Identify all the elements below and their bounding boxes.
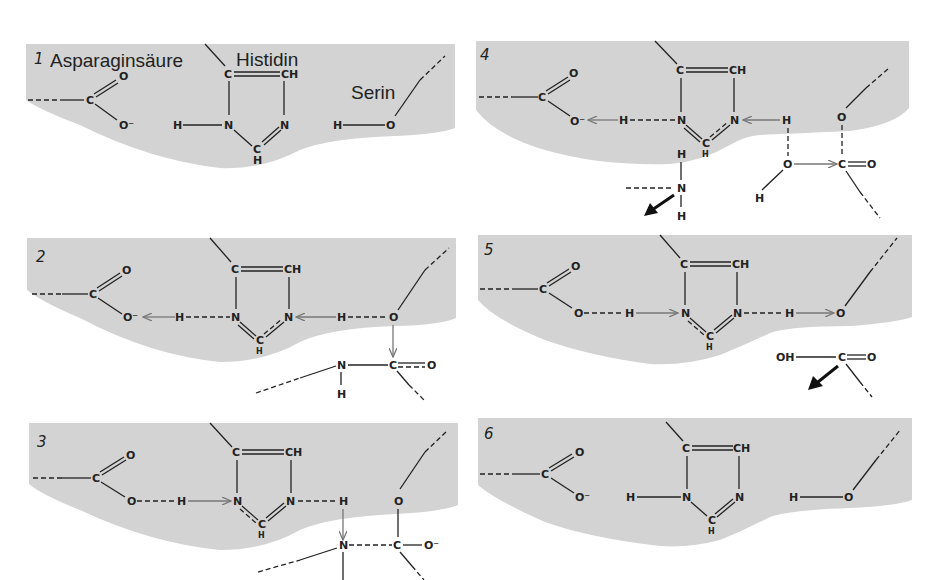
atom-o: O xyxy=(783,158,792,171)
atom-o: O xyxy=(386,119,395,132)
panel-5: 5 C O O H C CH N N C H H O OH C O xyxy=(478,235,912,397)
atom-c: C xyxy=(676,64,684,77)
panel-2: 2 C O O⁻ H C CH N N C H H O N H xyxy=(27,238,456,401)
atom-h: H xyxy=(337,388,346,401)
atom-c: C xyxy=(702,137,710,150)
atom-n: N xyxy=(280,119,289,132)
atom-h: H xyxy=(175,311,184,324)
panel-number: 2 xyxy=(36,248,46,266)
atom-o: O xyxy=(837,111,846,124)
enzyme-surface xyxy=(29,423,458,550)
atom-h: H xyxy=(708,527,715,536)
atom-ch: CH xyxy=(729,64,746,77)
leaving-group-arrow-icon xyxy=(644,203,658,216)
atom-o: O xyxy=(122,264,131,277)
atom-n: N xyxy=(286,495,295,508)
atom-h: H xyxy=(337,311,346,324)
atom-h: H xyxy=(789,491,798,504)
atom-n: N xyxy=(339,539,348,552)
atom-o-minus: O⁻ xyxy=(575,491,590,504)
atom-h: H xyxy=(333,119,342,132)
atom-n: N xyxy=(677,114,686,127)
atom-o-minus: O⁻ xyxy=(570,115,585,128)
atom-c: C xyxy=(838,351,846,364)
panel-number: 5 xyxy=(484,241,494,259)
atom-c: C xyxy=(256,334,264,347)
atom-ch: CH xyxy=(281,68,298,81)
atom-o-minus: O⁻ xyxy=(424,539,439,552)
atom-o: O xyxy=(427,359,436,372)
atom-o: O xyxy=(836,307,845,320)
atom-h: H xyxy=(619,114,628,127)
atom-h: H xyxy=(253,154,262,167)
panel-1: 1 Asparaginsäure Histidin Serin C O O⁻ C… xyxy=(26,44,455,168)
atom-n: N xyxy=(677,182,686,195)
atom-c: C xyxy=(393,539,401,552)
panel-number: 3 xyxy=(37,433,47,451)
atom-c: C xyxy=(224,68,232,81)
atom-c: C xyxy=(258,518,266,531)
panel-number: 4 xyxy=(480,46,490,64)
catalytic-triad-diagram: 1 Asparaginsäure Histidin Serin C O O⁻ C… xyxy=(0,0,932,580)
atom-o: O xyxy=(127,495,136,508)
atom-o: O xyxy=(126,449,135,462)
panel-4: 4 C O O⁻ H C CH N N C H H O H O C xyxy=(476,41,909,223)
atom-h: H xyxy=(258,531,265,540)
atom-oh: OH xyxy=(776,351,795,364)
atom-c: C xyxy=(706,330,714,343)
atom-o-minus: O⁻ xyxy=(119,119,134,132)
atom-ch: CH xyxy=(284,263,301,276)
enzyme-surface xyxy=(478,418,912,546)
atom-o: O xyxy=(867,158,876,171)
aspartate-label: Asparaginsäure xyxy=(50,50,183,71)
atom-h: H xyxy=(706,343,713,352)
atom-h: H xyxy=(339,495,348,508)
atom-n: N xyxy=(231,311,240,324)
atom-h: H xyxy=(755,192,764,205)
atom-n: N xyxy=(733,307,742,320)
atom-o-minus: O⁻ xyxy=(123,311,138,324)
histidine-label: Histidin xyxy=(236,49,298,70)
atom-o: O xyxy=(867,351,876,364)
atom-h: H xyxy=(782,114,791,127)
atom-c: C xyxy=(541,468,549,481)
atom-n: N xyxy=(337,359,346,372)
atom-c: C xyxy=(86,94,94,107)
atom-c: C xyxy=(682,442,690,455)
atom-c: C xyxy=(539,283,547,296)
atom-h: H xyxy=(677,210,686,223)
panel-number: 6 xyxy=(484,425,494,443)
atom-c: C xyxy=(232,446,240,459)
atom-h: H xyxy=(173,119,182,132)
panel-3: 3 C O O H C CH N N C H H O N C O⁻ xyxy=(29,423,458,580)
atom-h: H xyxy=(702,150,709,159)
serine-label: Serin xyxy=(351,82,395,103)
atom-h: H xyxy=(256,347,263,356)
atom-o: O xyxy=(574,307,583,320)
atom-o: O xyxy=(389,311,398,324)
atom-n: N xyxy=(735,491,744,504)
atom-o: O xyxy=(571,260,580,273)
atom-n: N xyxy=(681,307,690,320)
atom-h: H xyxy=(785,307,794,320)
atom-c: C xyxy=(708,514,716,527)
atom-ch: CH xyxy=(285,446,302,459)
panel-6: 6 C O O⁻ C CH H N N C H H O xyxy=(478,418,912,546)
atom-ch: CH xyxy=(732,258,749,271)
atom-ch: CH xyxy=(733,442,750,455)
atom-n: N xyxy=(233,495,242,508)
enzyme-surface xyxy=(478,235,912,364)
atom-n: N xyxy=(224,119,233,132)
atom-c: C xyxy=(680,258,688,271)
atom-o: O xyxy=(844,491,853,504)
atom-c: C xyxy=(231,263,239,276)
atom-n: N xyxy=(682,491,691,504)
atom-n: N xyxy=(730,114,739,127)
atom-o: O xyxy=(575,446,584,459)
atom-o: O xyxy=(569,67,578,80)
atom-c: C xyxy=(538,91,546,104)
atom-h: H xyxy=(177,495,186,508)
atom-h: H xyxy=(626,491,635,504)
atom-o: O xyxy=(394,495,403,508)
atom-h: H xyxy=(677,148,686,161)
